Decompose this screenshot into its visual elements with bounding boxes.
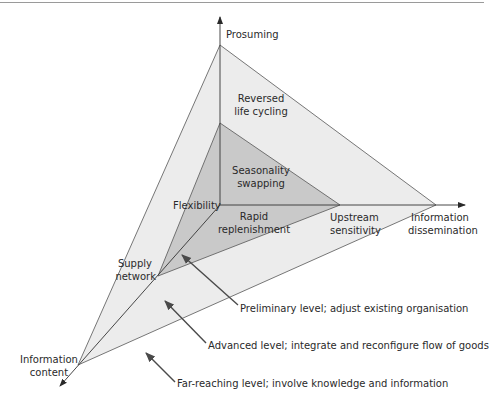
- region-seasonality-swapping: Seasonality swapping: [228, 164, 294, 190]
- region-label-line: replenishment: [214, 223, 294, 236]
- region-label-line: life cycling: [228, 105, 294, 118]
- axis-label-line: dissemination: [408, 224, 478, 237]
- axis-label-line: Information: [20, 353, 78, 366]
- region-label-line: network: [106, 270, 156, 283]
- region-supply-network: Supply network: [106, 257, 156, 283]
- level-advanced: Advanced level; integrate and reconfigur…: [208, 339, 489, 352]
- region-label-line: Reversed: [228, 92, 294, 105]
- region-label-line: Seasonality: [228, 164, 294, 177]
- axis-label-line: content: [20, 366, 78, 379]
- level-preliminary: Preliminary level; adjust existing organ…: [240, 302, 468, 315]
- axis-label-information-dissemination: Information dissemination: [408, 211, 478, 237]
- axis-label-line: Information: [408, 211, 478, 224]
- region-label-line: Upstream: [330, 211, 381, 224]
- axis-label-prosuming: Prosuming: [226, 28, 279, 41]
- level-far-reaching: Far-reaching level; involve knowledge an…: [177, 377, 448, 390]
- region-upstream-sensitivity: Upstream sensitivity: [330, 211, 381, 237]
- region-rapid-replenishment: Rapid replenishment: [214, 210, 294, 236]
- axis-label-information-content: Information content: [20, 353, 78, 379]
- region-label-line: sensitivity: [330, 224, 381, 237]
- region-label-line: Rapid: [214, 210, 294, 223]
- region-label-line: Supply: [106, 257, 156, 270]
- region-label-line: swapping: [228, 177, 294, 190]
- region-reversed-life-cycling: Reversed life cycling: [228, 92, 294, 118]
- far-reaching-level-arrow: [146, 353, 175, 382]
